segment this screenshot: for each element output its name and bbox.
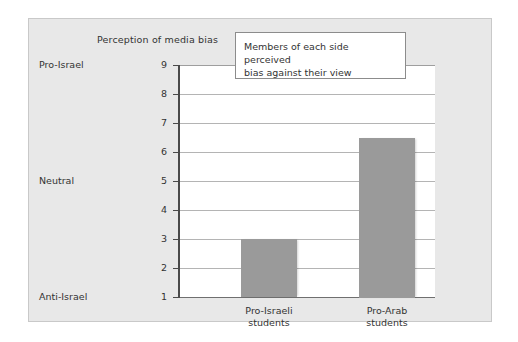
y-tick-label-3: 3 (141, 233, 167, 244)
y-tick-label-8: 8 (141, 88, 167, 99)
chart-title: Perception of media bias (97, 34, 218, 45)
gridline-7 (179, 123, 435, 124)
y-category-label-anti-israel: Anti-Israel (39, 291, 135, 302)
y-tick-label-4: 4 (141, 204, 167, 215)
y-tick-3 (173, 239, 179, 240)
y-category-label-pro-israel: Pro-Israel (39, 59, 135, 70)
y-tick-9 (173, 65, 179, 66)
y-tick-6 (173, 152, 179, 153)
annotation-callout: Members of each side perceivedbias again… (235, 32, 406, 79)
x-label-line: Pro-Arab (327, 305, 447, 317)
annotation-line: Members of each side perceived (244, 40, 397, 66)
y-tick-1 (173, 297, 179, 298)
bar-2[interactable] (359, 138, 415, 298)
x-axis-label-2: Pro-Arabstudents (327, 305, 447, 329)
y-tick-2 (173, 268, 179, 269)
y-tick-label-6: 6 (141, 146, 167, 157)
y-tick-label-2: 2 (141, 262, 167, 273)
y-tick-label-5: 5 (141, 175, 167, 186)
bar-1[interactable] (241, 239, 297, 297)
x-label-line: students (209, 317, 329, 329)
x-axis-label-1: Pro-Israelistudents (209, 305, 329, 329)
y-tick-8 (173, 94, 179, 95)
y-tick-5 (173, 181, 179, 182)
y-tick-4 (173, 210, 179, 211)
y-tick-label-7: 7 (141, 117, 167, 128)
x-label-line: students (327, 317, 447, 329)
chart-card: Perception of media bias 123456789 Pro-I… (28, 18, 492, 322)
y-tick-label-1: 1 (141, 291, 167, 302)
annotation-line: bias against their view (244, 66, 397, 79)
y-tick-label-9: 9 (141, 59, 167, 70)
x-label-line: Pro-Israeli (209, 305, 329, 317)
y-category-label-neutral: Neutral (39, 175, 135, 186)
y-tick-7 (173, 123, 179, 124)
gridline-8 (179, 94, 435, 95)
plot-area (179, 65, 435, 297)
